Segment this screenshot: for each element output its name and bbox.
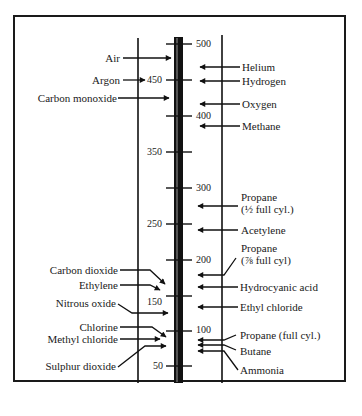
- label-hydrogen: Hydrogen: [242, 75, 286, 87]
- label-ammonia: Ammonia: [240, 364, 284, 376]
- label-carbon-dioxide: Carbon dioxide: [50, 264, 118, 276]
- arrow-carbon-dioxide: [120, 270, 165, 284]
- label-helium: Helium: [242, 61, 275, 73]
- arrow-ethylene: [120, 285, 160, 290]
- label-oxygen: Oxygen: [242, 98, 277, 110]
- tick-label-300: 300: [196, 183, 211, 193]
- label-propane-full: Propane (full cyl.): [240, 329, 320, 341]
- tick-label-150: 150: [147, 297, 162, 307]
- tick-label-350: 350: [147, 147, 162, 157]
- label-air: Air: [105, 52, 120, 64]
- tick-label-200: 200: [196, 255, 211, 265]
- label-hydrocyanic-acid: Hydrocyanic acid: [240, 281, 318, 293]
- arrow-chlorine: [120, 327, 166, 337]
- scale-graphic: [0, 0, 362, 416]
- label-propane-78: Propane: [241, 242, 277, 254]
- label-ethyl-chloride: Ethyl chloride: [240, 301, 303, 313]
- label-ethylene: Ethylene: [79, 279, 118, 291]
- tick-label-500: 500: [196, 39, 211, 49]
- label-acetylene: Acetylene: [241, 224, 286, 236]
- label-argon: Argon: [92, 74, 120, 86]
- label-sulphur-dioxide: Sulphur dioxide: [45, 360, 116, 372]
- tick-label-450: 450: [147, 75, 162, 85]
- arrow-ammonia: [198, 351, 238, 370]
- tick-label-50: 50: [153, 361, 163, 371]
- tick-label-400: 400: [196, 111, 211, 121]
- tick-label-100: 100: [196, 325, 211, 335]
- label-butane: Butane: [240, 345, 271, 357]
- arrow-propane-full: [198, 335, 236, 340]
- label-carbon-monoxide: Carbon monoxide: [38, 92, 117, 104]
- label-methane: Methane: [242, 120, 280, 132]
- label-propane-half: Propane: [241, 191, 277, 203]
- arrow-butane: [198, 345, 236, 350]
- label-propane-half-sub: (½ full cyl.): [241, 203, 294, 215]
- label-chlorine: Chlorine: [80, 321, 119, 333]
- label-propane-78-sub: (⅞ full cyl): [241, 254, 291, 266]
- label-nitrous-oxide: Nitrous oxide: [56, 297, 116, 309]
- label-methyl-chloride: Methyl chloride: [47, 333, 118, 345]
- tick-label-250: 250: [147, 219, 162, 229]
